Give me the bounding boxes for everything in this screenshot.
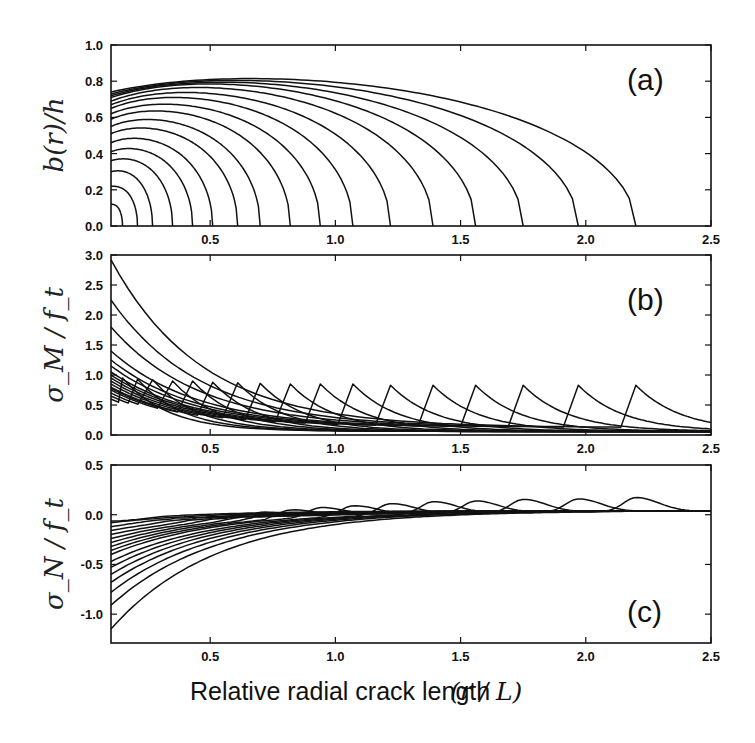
data-curve xyxy=(111,84,476,226)
y-tick-label: 0.5 xyxy=(85,398,103,413)
x-tick-label: 0.5 xyxy=(201,649,219,664)
panel-b-curves xyxy=(111,260,711,432)
panel-c-frame xyxy=(111,465,711,643)
panel-a-label: (a) xyxy=(627,63,664,96)
y-tick-label: -0.5 xyxy=(81,557,103,572)
panel-a-ylabel: b(r)/h xyxy=(39,98,69,173)
x-tick-label: 1.0 xyxy=(326,441,344,456)
panel-a-ticks: 0.51.01.52.02.50.00.20.40.60.81.0 xyxy=(85,38,720,247)
panel-b-ylabel: σ_M / f_t xyxy=(39,287,70,403)
panel-c-curves xyxy=(111,498,711,629)
x-tick-label: 1.5 xyxy=(452,441,470,456)
y-tick-label: 0.0 xyxy=(85,219,103,234)
x-tick-label: 1.5 xyxy=(452,649,470,664)
data-curve xyxy=(111,204,123,226)
x-tick-label: 1.0 xyxy=(326,649,344,664)
x-tick-label: 2.5 xyxy=(702,232,720,247)
x-tick-label: 2.0 xyxy=(577,649,595,664)
y-tick-label: 1.0 xyxy=(85,368,103,383)
data-curve xyxy=(111,98,353,227)
x-tick-label: 2.0 xyxy=(577,441,595,456)
data-curve xyxy=(111,186,138,226)
y-tick-label: 1.0 xyxy=(85,38,103,53)
y-tick-label: -1.0 xyxy=(81,607,103,622)
x-tick-label: 1.0 xyxy=(326,232,344,247)
y-tick-label: 0.0 xyxy=(85,508,103,523)
data-curve xyxy=(111,80,578,226)
y-tick-label: 0.0 xyxy=(85,428,103,443)
y-tick-label: 0.8 xyxy=(85,74,103,89)
panel-c-label: (c) xyxy=(627,595,662,628)
y-tick-label: 2.5 xyxy=(85,278,103,293)
x-tick-label: 1.5 xyxy=(452,232,470,247)
figure: 0.51.01.52.02.50.00.20.40.60.81.0 (a) b(… xyxy=(0,0,755,743)
x-tick-label: 2.0 xyxy=(577,232,595,247)
y-tick-label: 2.0 xyxy=(85,308,103,323)
x-tick-label: 0.5 xyxy=(201,441,219,456)
x-tick-label: 2.5 xyxy=(702,441,720,456)
y-tick-label: 1.5 xyxy=(85,338,103,353)
x-tick-label: 0.5 xyxy=(201,232,219,247)
y-tick-label: 0.4 xyxy=(85,147,104,162)
y-tick-label: 3.0 xyxy=(85,248,103,263)
x-axis-title-text: Relative radial crack length xyxy=(190,677,490,705)
data-curve xyxy=(111,360,711,431)
data-curve xyxy=(111,120,260,227)
x-tick-label: 2.5 xyxy=(702,649,720,664)
panel-c-ylabel: σ_N / f_t xyxy=(39,498,70,610)
panel-c: 0.51.01.52.02.5-1.0-0.50.00.5 (c) σ_N / … xyxy=(39,458,720,664)
data-curve xyxy=(111,93,391,227)
y-tick-label: 0.5 xyxy=(85,458,103,473)
x-axis-title-math: (r / L) xyxy=(450,677,522,706)
panel-a: 0.51.01.52.02.50.00.20.40.60.81.0 (a) b(… xyxy=(39,38,720,247)
data-curve xyxy=(111,159,173,226)
x-axis-title: Relative radial crack length (r / L) xyxy=(190,677,522,706)
panel-b-label: (b) xyxy=(627,283,664,316)
y-tick-label: 0.2 xyxy=(85,183,103,198)
panel-a-curves xyxy=(111,79,636,226)
y-tick-label: 0.6 xyxy=(85,110,103,125)
panel-b: 0.51.01.52.02.50.00.51.01.52.02.53.0 (b)… xyxy=(39,248,720,456)
panel-a-frame xyxy=(111,45,711,226)
